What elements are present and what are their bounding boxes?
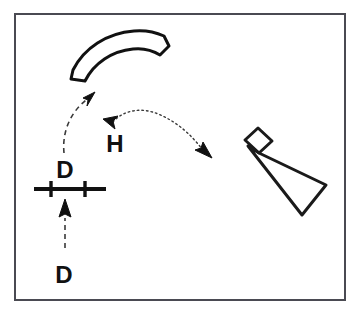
- label-d-upper: D: [56, 156, 73, 183]
- label-h-middle: H: [106, 130, 123, 157]
- canvas-background: [0, 0, 361, 315]
- diagram-figure: D D H: [0, 0, 361, 315]
- label-d-lower: D: [55, 261, 72, 288]
- diagram-canvas: D D H: [0, 0, 361, 315]
